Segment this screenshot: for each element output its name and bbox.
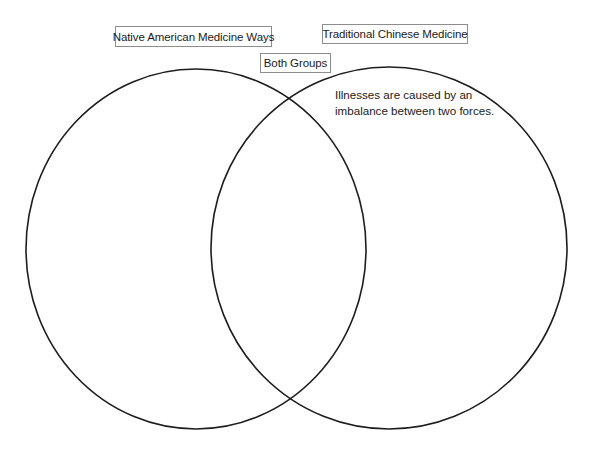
right-circle-entry[interactable]: Illnesses are caused by an imbalance bet… [335,87,487,119]
left-circle-label-box[interactable]: Native American Medicine Ways [115,26,272,47]
right-circle-outline [211,67,567,429]
overlap-label-box[interactable]: Both Groups [260,53,331,73]
right-circle-label-box[interactable]: Traditional Chinese Medicine [322,24,468,44]
left-circle-outline [26,69,366,429]
right-circle-entry-line-2: imbalance between two forces. [335,103,487,119]
right-circle-label-text: Traditional Chinese Medicine [322,28,467,40]
overlap-label-text: Both Groups [264,57,327,69]
right-circle-entry-line-1: Illnesses are caused by an [335,87,487,103]
left-circle-label-text: Native American Medicine Ways [113,31,275,43]
venn-diagram-canvas: Native American Medicine Ways Traditiona… [0,0,591,449]
